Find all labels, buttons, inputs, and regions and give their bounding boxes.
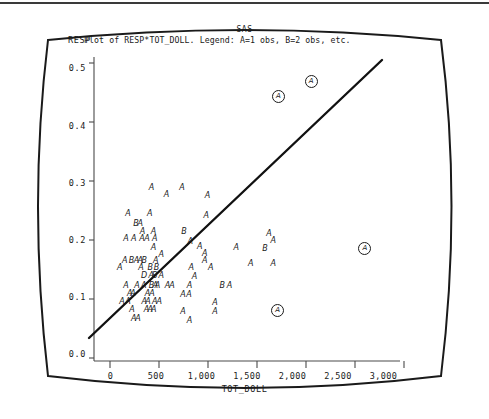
x-tick-label: 3,000 — [358, 371, 410, 381]
data-point-A: A — [180, 291, 185, 299]
data-point-A: A — [212, 308, 217, 316]
data-point-A: A — [270, 237, 275, 245]
data-point-A: A — [119, 298, 124, 306]
data-point-A: A — [117, 264, 122, 272]
data-point-A: A — [208, 264, 213, 272]
data-point-D: D — [141, 272, 147, 280]
data-point-B: B — [181, 228, 187, 236]
data-point-A: A — [158, 251, 163, 259]
x-tick-label: 2,000 — [267, 371, 319, 381]
data-point-A: A — [179, 184, 184, 192]
sas-system-label: SAS — [0, 25, 489, 34]
sas-plot-page: SAS RESP Plot of RESP*TOT_DOLL. Legend: … — [0, 0, 489, 419]
data-point-A: A — [147, 210, 152, 218]
data-point-A: A — [205, 192, 210, 200]
data-point-A: A — [248, 260, 253, 268]
y-tick-label: 0.3 — [52, 178, 86, 188]
data-point-A: A — [212, 299, 217, 307]
data-point-B: B — [262, 245, 268, 253]
y-tick-label: 0.4 — [52, 121, 86, 131]
data-point-A: A — [187, 317, 192, 325]
data-point-A: A — [270, 260, 275, 268]
x-tick-label: 1,500 — [221, 371, 273, 381]
data-point-A: A — [158, 272, 163, 280]
x-tick-label: 1,000 — [175, 371, 227, 381]
x-tick-label: 2,500 — [312, 371, 364, 381]
data-point-A: A — [187, 282, 192, 290]
x-tick-marks — [110, 361, 404, 368]
outlier-point-circled: A — [305, 75, 318, 88]
data-point-A: A — [155, 282, 160, 290]
x-tick-label: 500 — [130, 371, 182, 381]
x-axis-title: TOT_DOLL — [0, 384, 489, 394]
data-point-A: A — [125, 210, 130, 218]
data-point-A: A — [157, 298, 162, 306]
data-point-A: A — [203, 212, 208, 220]
data-point-A: A — [234, 244, 239, 252]
data-point-A: A — [202, 257, 207, 265]
data-point-A: A — [169, 282, 174, 290]
data-point-A: A — [151, 244, 156, 252]
y-tick-label: 0.5 — [52, 63, 86, 73]
data-point-A: A — [186, 291, 191, 299]
data-point-A: A — [227, 282, 232, 290]
data-point-B: B — [219, 282, 225, 290]
y-tick-label: 0.1 — [52, 292, 86, 302]
data-point-A: A — [135, 315, 140, 323]
data-point-B: B — [152, 272, 158, 280]
y-tick-label: 0.0 — [52, 349, 86, 359]
data-point-A: A — [180, 308, 185, 316]
outlier-point-circled: A — [272, 90, 285, 103]
data-point-A: A — [122, 257, 127, 265]
data-point-A: A — [164, 191, 169, 199]
data-point-A: A — [144, 235, 149, 243]
plot-title: Plot of RESP*TOT_DOLL. Legend: A=1 obs, … — [84, 35, 351, 45]
data-point-A: A — [192, 273, 197, 281]
y-tick-label: 0.2 — [52, 235, 86, 245]
data-point-A: A — [188, 264, 193, 272]
data-point-A: A — [151, 306, 156, 314]
data-point-A: A — [188, 238, 193, 246]
y-tick-marks — [89, 63, 94, 358]
x-tick-label: 0 — [84, 371, 136, 381]
data-point-A: A — [123, 235, 128, 243]
data-point-A: A — [149, 184, 154, 192]
data-point-A: A — [131, 235, 136, 243]
data-point-A: A — [129, 306, 134, 314]
